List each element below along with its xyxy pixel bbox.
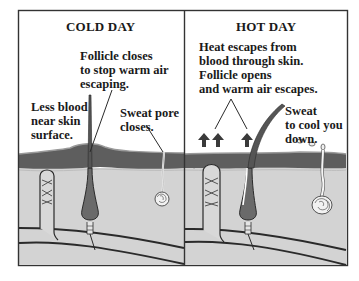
hot-day-title: HOT DAY bbox=[236, 20, 296, 34]
cold-follicle-line-2: to stop warm air bbox=[80, 63, 169, 77]
cold-day-title: COLD DAY bbox=[66, 20, 135, 34]
hot-heat-line-3: Follicle opens bbox=[199, 68, 272, 82]
cold-sweat-line-1: Sweat pore bbox=[120, 106, 179, 120]
cold-blood-line-2: near skin bbox=[31, 114, 80, 128]
cold-follicle-line-3: escaping. bbox=[80, 77, 129, 91]
hot-heat-line-4: and warm air escapes. bbox=[199, 82, 318, 96]
cold-blood-line-3: surface. bbox=[31, 128, 73, 142]
cold-follicle-line-1: Follicle closes bbox=[80, 49, 153, 63]
hot-heat-line-1: Heat escapes from bbox=[199, 40, 297, 54]
hot-sweat-line-3: down. bbox=[285, 132, 317, 146]
hot-heat-line-2: blood through skin. bbox=[199, 54, 303, 68]
skin-temperature-diagram: COLD DAY Follicle closes to stop warm ai… bbox=[0, 0, 359, 281]
hot-sweat-line-1: Sweat bbox=[285, 104, 317, 118]
hot-sweat-line-2: to cool you bbox=[285, 118, 343, 132]
cold-sweat-line-2: closes. bbox=[120, 120, 154, 134]
cold-blood-line-1: Less blood bbox=[31, 100, 88, 114]
